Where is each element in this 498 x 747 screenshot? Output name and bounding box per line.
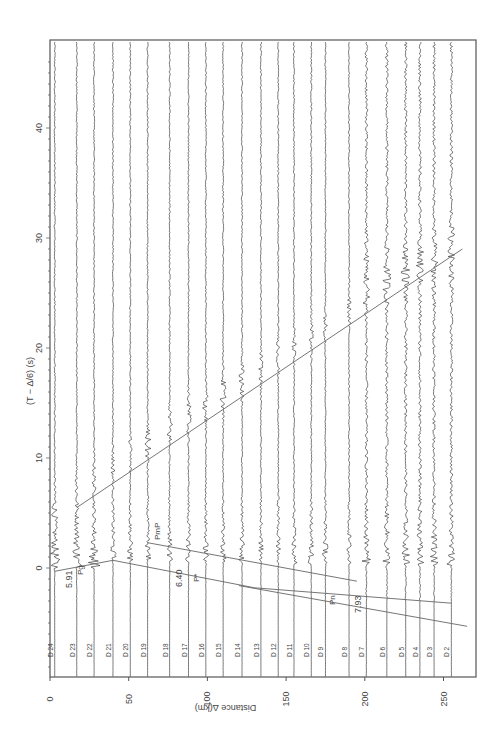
- station-label: D 7: [358, 647, 365, 658]
- station-label: D 23: [69, 643, 76, 657]
- station-label: D 4: [412, 647, 419, 658]
- plot-border: [50, 40, 476, 677]
- station-label: D 9: [317, 647, 324, 658]
- x-axis-title: Distance Δ(km): [195, 703, 257, 713]
- x-tick-label: 150: [281, 691, 291, 706]
- station-label: D 11: [286, 643, 293, 657]
- station-label: D 15: [215, 643, 222, 657]
- trace-d23: [73, 42, 82, 677]
- station-label: D 18: [162, 643, 169, 657]
- trace-d13: [259, 42, 264, 677]
- phase-annotation: 5.91: [64, 570, 74, 588]
- seismic-record-section: 050100150200250010203040(T − Δ/6) (s)Dis…: [0, 0, 498, 747]
- trace-d7: [362, 42, 371, 677]
- phase-line-p: [113, 560, 451, 603]
- station-label: D 2: [443, 647, 450, 658]
- station-label: D 16: [198, 643, 205, 657]
- station-label: D 5: [398, 647, 405, 658]
- y-tick-label: 10: [34, 453, 44, 463]
- seismic-traces: [51, 42, 455, 677]
- y-tick-label: 40: [34, 123, 44, 133]
- phase-annotation: 7.93: [353, 595, 363, 613]
- trace-d16: [203, 42, 209, 677]
- trace-d21: [111, 42, 116, 677]
- trace-d22: [88, 42, 100, 677]
- trace-d14: [239, 42, 245, 677]
- trace-d11: [292, 42, 297, 677]
- phase-annotation: Pg: [76, 565, 85, 575]
- station-label: D 10: [303, 643, 310, 657]
- station-label: D 3: [426, 647, 433, 658]
- y-tick-label: 0: [34, 565, 44, 570]
- trace-d24: [51, 42, 60, 677]
- station-label: D 17: [181, 643, 188, 657]
- axes: 050100150200250010203040(T − Δ/6) (s)Dis…: [25, 62, 449, 713]
- trace-d19: [145, 42, 151, 677]
- y-axis-title: (T − Δ/6) (s): [25, 357, 35, 405]
- station-label: D 8: [341, 647, 348, 658]
- phase-annotation: Pn: [328, 595, 337, 605]
- trace-d8: [347, 42, 351, 677]
- trace-d5: [401, 42, 409, 677]
- station-label: D 19: [140, 643, 147, 657]
- station-label: D 6: [379, 647, 386, 658]
- trace-d4: [416, 42, 423, 677]
- trace-d9: [323, 42, 328, 677]
- x-tick-label: 50: [124, 694, 134, 704]
- phase-annotation: P*: [192, 574, 201, 582]
- station-label: D 21: [105, 643, 112, 657]
- station-label: D 12: [270, 643, 277, 657]
- phase-annotation: 6.40: [174, 569, 184, 587]
- station-label: D 24: [47, 643, 54, 657]
- station-label: D 14: [234, 643, 241, 657]
- station-label: D 22: [86, 643, 93, 657]
- trace-d20: [127, 42, 133, 677]
- y-tick-label: 20: [34, 343, 44, 353]
- trace-d2: [447, 42, 455, 677]
- phase-annotation: PmP: [153, 523, 162, 540]
- trace-d3: [430, 42, 438, 677]
- x-tick-label: 0: [45, 696, 55, 701]
- trace-d12: [276, 42, 281, 677]
- y-tick-label: 30: [34, 233, 44, 243]
- x-tick-label: 200: [360, 691, 370, 706]
- labels: D 24D 23D 22D 21D 20D 19D 18D 17D 16D 15…: [47, 523, 451, 657]
- plot-frame: [50, 40, 476, 677]
- trace-d6: [383, 42, 391, 677]
- station-label: D 13: [253, 643, 260, 657]
- trace-d18: [167, 42, 173, 677]
- trace-d10: [308, 42, 314, 677]
- trace-d17: [186, 42, 192, 677]
- station-label: D 20: [122, 643, 129, 657]
- x-tick-label: 250: [439, 691, 449, 706]
